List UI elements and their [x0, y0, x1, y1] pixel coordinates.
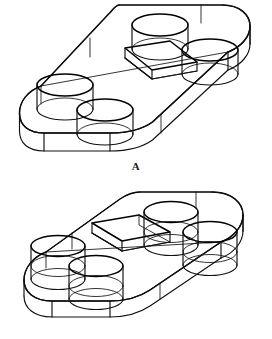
- figure-b-drawing: [0, 170, 272, 322]
- figure-a-drawing: [0, 0, 272, 158]
- hole-a-1: [132, 14, 188, 60]
- hole-a-4: [77, 99, 133, 145]
- plate-thickness-edges: [20, 5, 251, 151]
- drawing-sheet: A: [0, 0, 272, 339]
- hole-b-2: [183, 222, 237, 276]
- hole-a-2: [182, 39, 238, 85]
- hole-b-1: [144, 202, 198, 256]
- figure-b: B: [0, 170, 272, 339]
- plate-top-face-outline-b: [24, 192, 243, 301]
- figure-a: A: [0, 0, 272, 170]
